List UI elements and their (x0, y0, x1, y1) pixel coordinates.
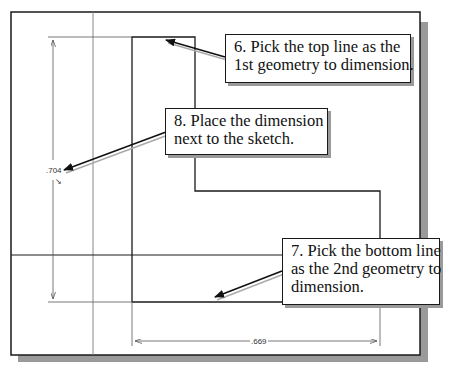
callout-step-7: 7. Pick the bottom line as the 2nd geome… (282, 238, 440, 305)
callout-step-6-line-2: 1st geometry to dimension. (234, 56, 404, 74)
callout-step-7-line-3: dimension. (291, 278, 433, 296)
callout-step-8-line-1: 8. Place the dimension (174, 112, 321, 130)
callout-step-8: 8. Place the dimension next to the sketc… (165, 108, 328, 155)
callout-step-7-line-1: 7. Pick the bottom line (291, 242, 433, 260)
callout-step-6: 6. Pick the top line as the 1st geometry… (225, 34, 411, 83)
cursor-icon: ↘ (55, 177, 62, 186)
callout-step-7-line-2: as the 2nd geometry to (291, 260, 433, 278)
vertical-dimension-value[interactable]: .704 (46, 166, 62, 175)
callout-step-8-line-2: next to the sketch. (174, 130, 321, 148)
horizontal-dimension-value[interactable]: .669 (251, 337, 267, 346)
callout-step-6-line-1: 6. Pick the top line as the (234, 38, 404, 56)
